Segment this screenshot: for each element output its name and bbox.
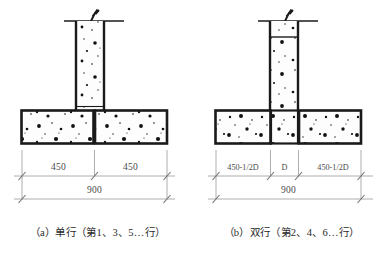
- dim-label-b-450-half-d-left: 450-1/2D: [212, 164, 274, 172]
- dim-label-a-900: 900: [72, 186, 117, 196]
- dim-label-a-450-right: 450: [108, 163, 153, 173]
- footing-block-a-right-fill: [95, 111, 167, 144]
- dim-label-a-450-left: 450: [36, 163, 81, 173]
- caption-a: （a）单行（第1、3、5…行）: [0, 224, 195, 239]
- figure-canvas: 450 450 900 （a）单行（第1、3、5…行）: [0, 0, 389, 256]
- subfigure-b-drawing: [194, 0, 389, 256]
- subfigure-a-drawing: [0, 0, 195, 256]
- dim-label-b-d: D: [268, 164, 301, 172]
- caption-b: （b）双行（第2、4、6…行）: [194, 224, 389, 239]
- break-symbol-a: [91, 10, 99, 22]
- break-symbol-b: [285, 10, 293, 22]
- footing-block-a-left-fill: [22, 111, 94, 144]
- dim-label-b-900: 900: [266, 186, 311, 196]
- column-fill-b: [270, 21, 298, 110]
- footing-block-b-mid-fill: [271, 111, 298, 144]
- dim-label-b-450-half-d-right: 450-1/2D: [302, 164, 364, 172]
- subfigure-b: 450-1/2D D 450-1/2D 900 （b）双行（第2、4、6…行）: [194, 0, 389, 256]
- footing-block-b-left-fill: [216, 111, 271, 144]
- footing-block-b-right-fill: [299, 111, 361, 144]
- column-fill-a: [76, 21, 104, 110]
- subfigure-a: 450 450 900 （a）单行（第1、3、5…行）: [0, 0, 195, 256]
